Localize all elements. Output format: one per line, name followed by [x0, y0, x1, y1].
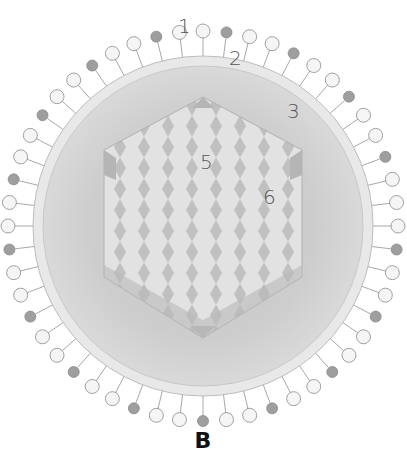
glycoprotein-spike: [37, 110, 65, 131]
glycoprotein-spike: [128, 383, 143, 414]
glycoprotein-spike: [314, 352, 337, 378]
glycoprotein-spike: [352, 304, 381, 322]
callout-label-1: 1: [178, 14, 191, 38]
glycoprotein-spike: [50, 90, 77, 115]
panel-label: B: [195, 428, 212, 453]
glycoprotein-spike: [370, 244, 402, 255]
glycoprotein-spike: [220, 393, 234, 427]
glycoprotein-spike: [298, 59, 320, 88]
glycoprotein-spike: [281, 375, 301, 406]
glycoprotein-spike: [36, 321, 65, 343]
glycoprotein-spike: [360, 286, 392, 303]
glycoprotein-spike: [360, 151, 391, 166]
glycoprotein-spike: [23, 128, 54, 148]
glycoprotein-spike: [151, 31, 163, 63]
glycoprotein-spike: [8, 174, 40, 186]
callout-label-2: 2: [229, 46, 242, 70]
glycoprotein-spike: [198, 394, 209, 427]
callout-label-3: 3: [287, 99, 300, 123]
glycoprotein-spike: [1, 219, 35, 233]
glycoprotein-spike: [298, 364, 320, 393]
glycoprotein-spike: [105, 375, 125, 406]
glycoprotein-spike: [243, 389, 257, 422]
glycoprotein-spike: [50, 337, 77, 362]
glycoprotein-spike: [243, 30, 257, 63]
callout-label-6: 6: [263, 185, 276, 209]
glycoprotein-spike: [352, 128, 383, 148]
glycoprotein-spike: [149, 389, 163, 422]
glycoprotein-spike: [172, 393, 186, 427]
glycoprotein-spike: [341, 321, 370, 343]
glycoprotein-spike: [370, 195, 404, 209]
glycoprotein-spike: [4, 244, 36, 255]
glycoprotein-spike: [7, 266, 40, 280]
glycoprotein-spike: [196, 24, 210, 58]
glycoprotein-spike: [329, 337, 356, 362]
glycoprotein-spike: [263, 383, 278, 414]
callout-label-5: 5: [200, 150, 213, 174]
glycoprotein-spike: [87, 60, 108, 88]
glycoprotein-spike: [105, 46, 125, 77]
glycoprotein-spike: [14, 150, 46, 167]
glycoprotein-spike: [341, 108, 370, 130]
glycoprotein-spike: [68, 352, 91, 378]
virus-diagram: B: [0, 0, 407, 470]
glycoprotein-spike: [281, 48, 299, 77]
glycoprotein-spike: [263, 37, 280, 69]
glycoprotein-spike: [67, 73, 92, 100]
glycoprotein-spike: [371, 219, 405, 233]
glycoprotein-spike: [329, 91, 355, 114]
glycoprotein-spike: [25, 304, 54, 322]
glycoprotein-spike: [85, 364, 107, 393]
glycoprotein-spike: [2, 195, 36, 209]
glycoprotein-spike: [366, 172, 399, 186]
glycoprotein-spike: [127, 37, 144, 69]
glycoprotein-spike: [14, 286, 46, 303]
glycoprotein-spike: [314, 73, 339, 100]
glycoprotein-spike: [366, 266, 399, 280]
